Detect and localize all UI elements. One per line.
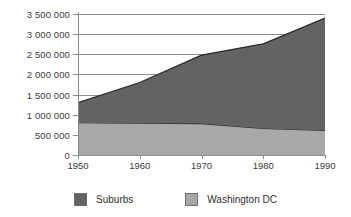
- area-series-suburbs: [78, 18, 325, 130]
- y-axis-label: 0: [65, 150, 70, 161]
- y-axis-label: 500 000: [35, 129, 70, 140]
- x-axis-label: 1950: [67, 160, 88, 171]
- y-axis-label: 1 000 000: [27, 109, 70, 120]
- area-chart: 0500 0001 000 0001 500 0002 000 0002 500…: [0, 0, 351, 217]
- legend-item[interactable]: Washington DC: [185, 193, 277, 206]
- legend-label: Suburbs: [96, 194, 133, 205]
- x-axis-tick: [140, 155, 141, 159]
- y-axis-label: 2 500 000: [27, 49, 70, 60]
- x-axis-tick: [202, 155, 203, 159]
- x-axis-tick: [78, 155, 79, 159]
- y-axis-label: 3 500 000: [27, 9, 70, 20]
- y-axis-label: 2 000 000: [27, 69, 70, 80]
- x-axis-tick: [263, 155, 264, 159]
- x-axis-tick: [325, 155, 326, 159]
- legend-swatch-icon: [74, 193, 87, 206]
- chart-legend: SuburbsWashington DC: [0, 188, 351, 210]
- y-axis-label: 3 000 000: [27, 29, 70, 40]
- y-axis-line: [78, 12, 79, 157]
- plot-wrapper: 0500 0001 000 0001 500 0002 000 0002 500…: [0, 0, 351, 217]
- stacked-area-plot: [78, 14, 325, 155]
- legend-label: Washington DC: [207, 194, 277, 205]
- legend-item[interactable]: Suburbs: [74, 193, 133, 206]
- x-axis-label: 1980: [253, 160, 274, 171]
- x-axis-label: 1990: [314, 160, 335, 171]
- legend-swatch-icon: [185, 193, 198, 206]
- x-axis-label: 1960: [129, 160, 150, 171]
- y-axis-label: 1 500 000: [27, 89, 70, 100]
- x-axis-label: 1970: [191, 160, 212, 171]
